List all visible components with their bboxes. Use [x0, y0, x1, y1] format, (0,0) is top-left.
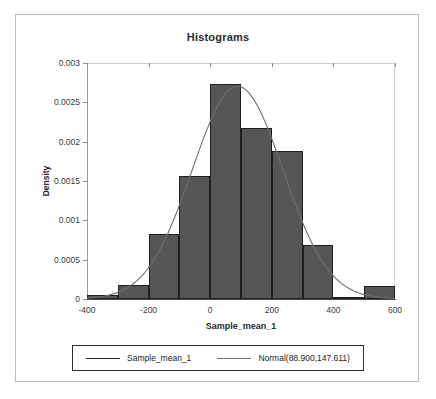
normal-curve	[87, 63, 395, 299]
legend-line-icon	[217, 358, 251, 359]
legend-line-icon	[86, 358, 120, 359]
x-tick-mark	[87, 63, 88, 67]
x-tick-mark	[333, 63, 334, 67]
x-axis-line	[87, 299, 396, 300]
chart-frame: Histograms Density 00.00050.0010.00150.0…	[15, 14, 419, 382]
x-tick-label: -200	[140, 305, 157, 315]
chart-legend: Sample_mean_1 Normal(88.900,147.611)	[72, 345, 364, 371]
legend-label: Normal(88.900,147.611)	[258, 353, 350, 363]
y-axis-label: Density	[39, 63, 53, 299]
x-tick-mark	[210, 63, 211, 67]
x-tick-label: 600	[388, 305, 402, 315]
legend-item-normal: Normal(88.900,147.611)	[217, 353, 350, 363]
plot-area: 00.00050.0010.00150.0020.00250.003 -400-…	[87, 63, 395, 299]
x-tick-label: 400	[326, 305, 340, 315]
legend-item-sample-mean-1: Sample_mean_1	[86, 353, 191, 363]
x-tick-label: 200	[265, 305, 279, 315]
legend-label: Sample_mean_1	[127, 353, 191, 363]
chart-title: Histograms	[16, 31, 420, 43]
x-tick-label: 0	[208, 305, 213, 315]
x-tick-mark	[149, 63, 150, 67]
x-tick-mark	[395, 63, 396, 67]
x-tick-label: -400	[78, 305, 95, 315]
x-axis-label: Sample_mean_1	[87, 321, 395, 331]
y-axis-label-text: Density	[41, 166, 51, 197]
x-tick-mark	[272, 63, 273, 67]
